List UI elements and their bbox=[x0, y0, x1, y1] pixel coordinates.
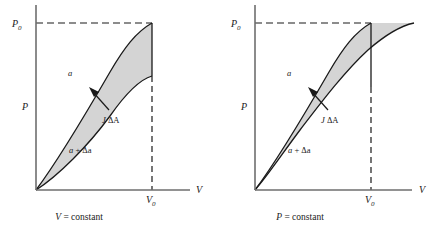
right-flux-label: J ΔA bbox=[321, 115, 339, 125]
right-y-axis-label: P bbox=[240, 101, 247, 112]
figure-root: P0 P V0 V a a + Δa J ΔA V = constant bbox=[0, 0, 441, 232]
left-y-axis-label: P bbox=[21, 101, 28, 112]
right-label-a-plus-delta-a: a + Δa bbox=[288, 145, 311, 155]
left-panel-caption: V = constant bbox=[55, 212, 103, 222]
left-label-a: a bbox=[68, 68, 72, 78]
right-panel-caption: P = constant bbox=[275, 212, 324, 222]
right-label-a: a bbox=[287, 68, 291, 78]
left-label-a-plus-delta-a: a + Δa bbox=[69, 145, 92, 155]
left-flux-label: J ΔA bbox=[102, 115, 120, 125]
